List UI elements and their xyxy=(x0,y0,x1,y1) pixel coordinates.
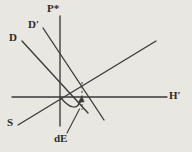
label-s: S xyxy=(7,117,13,128)
label-d: D xyxy=(9,32,17,43)
label-p-star: P* xyxy=(47,3,59,14)
leader-de-label xyxy=(67,109,80,133)
label-de: dE xyxy=(54,133,67,144)
label-h-prime: H′ xyxy=(169,90,181,101)
label-d-prime: D′ xyxy=(28,19,39,30)
figure-canvas: P* D′ D H′ S dE xyxy=(0,0,192,152)
